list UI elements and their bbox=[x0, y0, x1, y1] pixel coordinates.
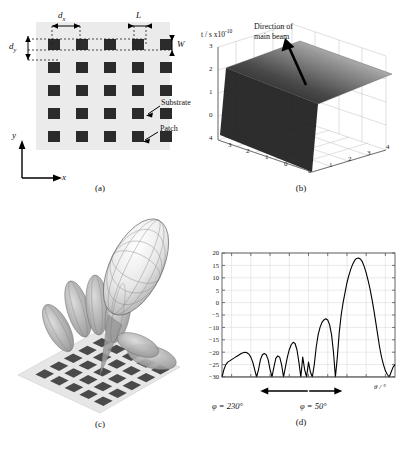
patch-callout-label: Patch bbox=[160, 124, 178, 133]
panel-b-y-tick: 3 bbox=[228, 141, 232, 149]
panel-b-caption: (b) bbox=[281, 183, 321, 193]
panel-a-array-geometry: dx L dy W Substrate Patch y x (a) bbox=[0, 0, 200, 200]
panel-b-x-tick: 3 bbox=[367, 149, 371, 157]
panel-d-y-tick-label: 15 bbox=[213, 262, 220, 269]
panel-d-y-tick-label: 10 bbox=[213, 274, 220, 281]
dimension-label-dx: dx bbox=[58, 10, 65, 22]
panel-b-y-tick: 4 bbox=[209, 134, 213, 142]
panel-d-caption: (d) bbox=[281, 417, 321, 427]
panel-b-x-tick: 4 bbox=[386, 143, 390, 151]
panel-d-y-tick-label: 20 bbox=[213, 249, 220, 256]
panel-b-time-delay-surface: t / s x10-10 Direction of main beam 3 2 … bbox=[196, 0, 403, 200]
panel-b-z-tick: 2 bbox=[209, 65, 213, 73]
panel-d-y-tick-label: 0 bbox=[216, 299, 219, 306]
panel-b-x-tick: 0 bbox=[308, 167, 312, 175]
panel-d-y-tick-label: −15 bbox=[209, 336, 219, 343]
panel-d-y-tick-label: −25 bbox=[209, 361, 219, 368]
panel-b-y-tick: 1 bbox=[265, 153, 269, 161]
panel-b-x-tick: 1 bbox=[329, 161, 333, 169]
dimension-label-dy: dy bbox=[9, 41, 16, 53]
panel-c-plot bbox=[0, 205, 200, 440]
panel-b-y-tick: 0 bbox=[284, 160, 288, 168]
panel-b-x-tick: 2 bbox=[348, 155, 352, 163]
panel-d-y-tick-label: −20 bbox=[209, 349, 219, 356]
panel-b-y-tick: 2 bbox=[246, 147, 250, 155]
panel-b-z-tick: 1 bbox=[209, 88, 213, 96]
panel-d-y-tick-label: −10 bbox=[209, 324, 219, 331]
panel-c-3d-radiation-pattern: (c) bbox=[0, 205, 200, 440]
phi-left-annotation: φ = 230° bbox=[212, 401, 243, 411]
panel-d-y-tick-label: −30 bbox=[209, 373, 219, 380]
panel-d-y-tick-label: 5 bbox=[216, 287, 219, 294]
main-beam-direction-annotation: Direction of main beam bbox=[254, 22, 293, 42]
dimension-label-W: W bbox=[177, 39, 185, 49]
panel-b-z-tick: 0 bbox=[209, 111, 213, 119]
panel-a-caption: (a) bbox=[80, 183, 120, 193]
panel-b-z-axis-label: t / s x10-10 bbox=[201, 28, 232, 39]
panel-d-y-tick-label: −5 bbox=[212, 311, 219, 318]
panel-d-x-axis-label: θ / ° bbox=[374, 383, 386, 391]
phi-right-annotation: φ = 50° bbox=[300, 401, 327, 411]
panel-b-z-tick: 3 bbox=[209, 42, 213, 50]
axis-label-y: y bbox=[12, 130, 16, 140]
panel-c-caption: (c) bbox=[80, 419, 120, 429]
panel-d-pattern-cut-chart: 80604020020406080−30−25−20−15−10−5051015… bbox=[196, 205, 403, 440]
axis-label-x: x bbox=[62, 172, 66, 182]
substrate-callout-label: Substrate bbox=[161, 98, 191, 107]
dimension-label-L: L bbox=[136, 10, 141, 20]
